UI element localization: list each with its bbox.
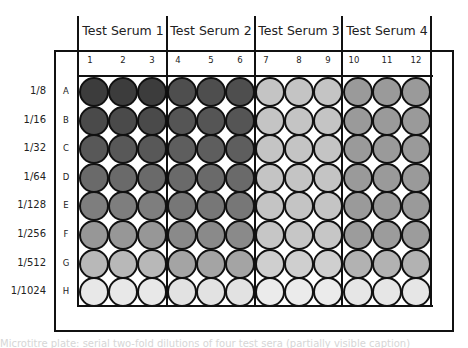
well-G5 <box>196 249 226 279</box>
column-number: 11 <box>377 55 397 65</box>
column-number: 12 <box>406 55 426 65</box>
well-G10 <box>343 249 373 279</box>
well-C2 <box>108 134 138 164</box>
dilution-label: 1/8 <box>0 85 46 96</box>
dilution-label: 1/512 <box>0 257 46 268</box>
well-H10 <box>343 277 373 307</box>
well-H3 <box>137 277 167 307</box>
well-A5 <box>196 77 226 107</box>
row-letter: G <box>60 258 72 268</box>
well-B7 <box>255 106 285 136</box>
well-C12 <box>401 134 431 164</box>
well-D10 <box>343 163 373 193</box>
well-A1 <box>79 77 109 107</box>
well-A3 <box>137 77 167 107</box>
well-A2 <box>108 77 138 107</box>
well-F9 <box>313 220 343 250</box>
well-F5 <box>196 220 226 250</box>
row-letter: E <box>60 200 72 210</box>
row-letter: H <box>60 286 72 296</box>
well-B12 <box>401 106 431 136</box>
well-A4 <box>167 77 197 107</box>
well-F11 <box>372 220 402 250</box>
well-G11 <box>372 249 402 279</box>
column-number: 7 <box>256 55 276 65</box>
well-A9 <box>313 77 343 107</box>
well-B2 <box>108 106 138 136</box>
well-F1 <box>79 220 109 250</box>
well-G9 <box>313 249 343 279</box>
well-H5 <box>196 277 226 307</box>
row-letter: F <box>60 229 72 239</box>
well-F4 <box>167 220 197 250</box>
well-D11 <box>372 163 402 193</box>
well-A7 <box>255 77 285 107</box>
row-letter: D <box>60 172 72 182</box>
well-H4 <box>167 277 197 307</box>
column-number: 9 <box>318 55 338 65</box>
well-G4 <box>167 249 197 279</box>
well-G2 <box>108 249 138 279</box>
well-B1 <box>79 106 109 136</box>
well-C9 <box>313 134 343 164</box>
well-H2 <box>108 277 138 307</box>
dilution-label: 1/128 <box>0 199 46 210</box>
column-number: 3 <box>142 55 162 65</box>
well-D12 <box>401 163 431 193</box>
dilution-label: 1/64 <box>0 171 46 182</box>
well-H7 <box>255 277 285 307</box>
well-H11 <box>372 277 402 307</box>
well-A12 <box>401 77 431 107</box>
well-B8 <box>284 106 314 136</box>
well-H6 <box>225 277 255 307</box>
serum-group-label: Test Serum 2 <box>167 20 255 42</box>
well-H9 <box>313 277 343 307</box>
well-D4 <box>167 163 197 193</box>
well-D2 <box>108 163 138 193</box>
row-letter: A <box>60 86 72 96</box>
dilution-label: 1/32 <box>0 142 46 153</box>
well-D6 <box>225 163 255 193</box>
well-C6 <box>225 134 255 164</box>
well-C8 <box>284 134 314 164</box>
well-G7 <box>255 249 285 279</box>
well-F7 <box>255 220 285 250</box>
well-F10 <box>343 220 373 250</box>
well-G12 <box>401 249 431 279</box>
well-B11 <box>372 106 402 136</box>
well-B9 <box>313 106 343 136</box>
row-letter: C <box>60 143 72 153</box>
well-A8 <box>284 77 314 107</box>
well-H12 <box>401 277 431 307</box>
well-D9 <box>313 163 343 193</box>
well-B4 <box>167 106 197 136</box>
well-F2 <box>108 220 138 250</box>
well-G6 <box>225 249 255 279</box>
well-C5 <box>196 134 226 164</box>
serum-group-label: Test Serum 3 <box>255 20 343 42</box>
well-B6 <box>225 106 255 136</box>
row-letter: B <box>60 115 72 125</box>
well-F8 <box>284 220 314 250</box>
column-number: 8 <box>289 55 309 65</box>
well-D3 <box>137 163 167 193</box>
column-number: 2 <box>113 55 133 65</box>
well-C1 <box>79 134 109 164</box>
dilution-label: 1/16 <box>0 114 46 125</box>
well-C11 <box>372 134 402 164</box>
well-C7 <box>255 134 285 164</box>
well-D8 <box>284 163 314 193</box>
well-A6 <box>225 77 255 107</box>
column-number: 4 <box>168 55 188 65</box>
well-A11 <box>372 77 402 107</box>
serum-group-label: Test Serum 1 <box>79 20 167 42</box>
well-F6 <box>225 220 255 250</box>
column-number: 6 <box>230 55 250 65</box>
column-number: 1 <box>80 55 100 65</box>
well-B5 <box>196 106 226 136</box>
caption-text: Microtitre plate: serial two-fold diluti… <box>0 338 468 348</box>
well-C10 <box>343 134 373 164</box>
dilution-label: 1/1024 <box>0 285 46 296</box>
well-G3 <box>137 249 167 279</box>
well-C4 <box>167 134 197 164</box>
